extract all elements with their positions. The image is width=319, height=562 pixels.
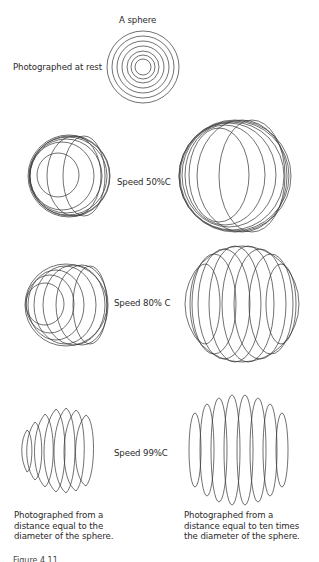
- sphere-80-near: [25, 264, 108, 346]
- sphere-at-rest: [107, 31, 179, 103]
- sphere-50-far: [179, 120, 291, 232]
- diagram-drawing: [0, 0, 319, 562]
- sphere-99-near: [22, 408, 94, 493]
- sphere-99-far: [189, 395, 288, 505]
- sphere-50-near: [28, 135, 110, 217]
- sphere-80-far: [185, 246, 299, 362]
